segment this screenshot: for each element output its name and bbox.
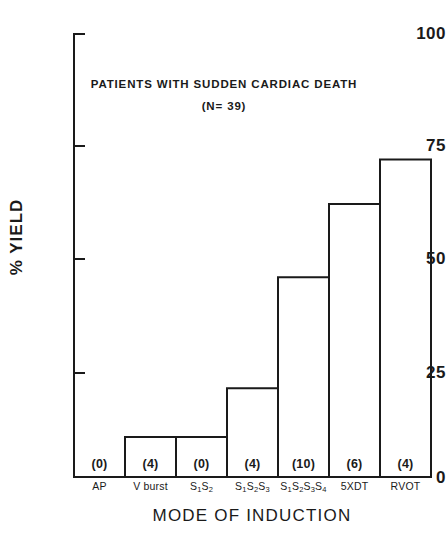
chart-title-block: PATIENTS WITH SUDDEN CARDIAC DEATH (N= 3… bbox=[74, 78, 374, 114]
bar-chart-figure: % YIELD 100 75 50 25 0 PATIENTS WITH SUD… bbox=[0, 0, 446, 547]
x-axis-title: MODE OF INDUCTION bbox=[73, 506, 431, 526]
y-tick-mark-50 bbox=[75, 258, 85, 260]
bar-count-5xdt: (6) bbox=[329, 458, 380, 471]
y-tick-mark-25 bbox=[75, 372, 85, 374]
y-tick-label-75: 75 bbox=[380, 137, 446, 154]
y-tick-label-50: 50 bbox=[380, 250, 446, 267]
chart-title: PATIENTS WITH SUDDEN CARDIAC DEATH bbox=[74, 78, 374, 92]
bar-count-s1s2s3: (4) bbox=[227, 458, 278, 471]
y-axis-title: % YIELD bbox=[7, 187, 27, 287]
y-tick-mark-100 bbox=[75, 33, 85, 35]
chart-sample-size: (N= 39) bbox=[74, 100, 374, 114]
x-axis-line bbox=[73, 476, 431, 478]
x-tick-label-rvot: RVOT bbox=[361, 481, 446, 492]
y-tick-label-100: 100 bbox=[380, 25, 446, 42]
y-tick-label-25: 25 bbox=[380, 364, 446, 381]
bar-count-ap: (0) bbox=[74, 458, 125, 471]
bar-count-s1s2: (0) bbox=[176, 458, 227, 471]
bar-count-vburst: (4) bbox=[125, 458, 176, 471]
bar-count-s1s2s3s4: (10) bbox=[278, 458, 329, 471]
y-tick-mark-75 bbox=[75, 145, 85, 147]
bar-count-rvot: (4) bbox=[380, 458, 431, 471]
